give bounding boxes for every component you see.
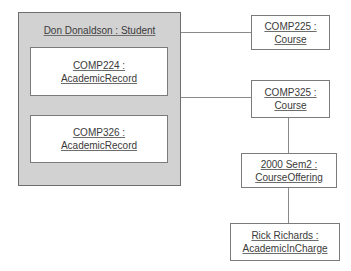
link-course325-offering (288, 118, 289, 153)
object-offering[interactable]: 2000 Sem2 : CourseOffering (241, 153, 337, 188)
object-course325-line2: Course (274, 99, 306, 112)
uml-object-diagram-canvas: Don Donaldson : Student COMP224 : Academ… (0, 0, 351, 271)
object-incharge-line1: Rick Richards : (251, 229, 318, 242)
object-record224-line1: COMP224 : (73, 59, 125, 72)
object-course325-line1: COMP325 : (264, 86, 316, 99)
object-record224-line2: AcademicRecord (61, 72, 137, 85)
object-course325[interactable]: COMP325 : Course (251, 80, 330, 118)
object-offering-line1: 2000 Sem2 : (261, 158, 318, 171)
object-record224[interactable]: COMP224 : AcademicRecord (30, 47, 168, 96)
object-offering-line2: CourseOffering (255, 171, 323, 184)
link-offering-incharge (288, 188, 289, 223)
object-course225-line2: Course (274, 33, 306, 46)
object-record326-line1: COMP326 : (73, 126, 125, 139)
link-student-course325 (181, 97, 251, 98)
object-incharge[interactable]: Rick Richards : AcademicInCharge (230, 223, 340, 261)
object-record326-line2: AcademicRecord (61, 139, 137, 152)
object-course225-line1: COMP225 : (264, 20, 316, 33)
object-course225[interactable]: COMP225 : Course (251, 15, 330, 50)
object-student-label: Don Donaldson : Student (18, 24, 181, 37)
object-record326[interactable]: COMP326 : AcademicRecord (30, 115, 168, 163)
link-student-course225 (181, 32, 251, 33)
object-incharge-line2: AcademicInCharge (242, 242, 327, 255)
